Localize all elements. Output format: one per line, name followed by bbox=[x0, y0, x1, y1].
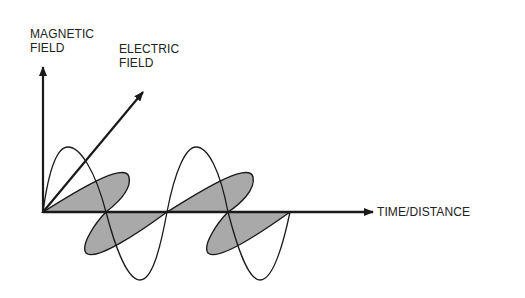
electric-lobe-1-up bbox=[43, 172, 129, 212]
electric-lobe-2-up bbox=[167, 172, 253, 212]
electric-field-label-line2: FIELD bbox=[119, 56, 179, 70]
electric-field-label: ELECTRIC FIELD bbox=[119, 42, 179, 70]
magnetic-field-label-line1: MAGNETIC bbox=[30, 27, 94, 41]
time-distance-label: TIME/DISTANCE bbox=[377, 205, 470, 219]
magnetic-field-label: MAGNETIC FIELD bbox=[30, 27, 94, 55]
electric-lobe-2-down bbox=[207, 212, 290, 255]
magnetic-field-label-line2: FIELD bbox=[30, 41, 94, 55]
electric-lobe-1-down bbox=[85, 212, 167, 255]
electric-field-label-line1: ELECTRIC bbox=[119, 42, 179, 56]
em-wave-diagram: MAGNETIC FIELD ELECTRIC FIELD TIME/DISTA… bbox=[0, 0, 525, 298]
